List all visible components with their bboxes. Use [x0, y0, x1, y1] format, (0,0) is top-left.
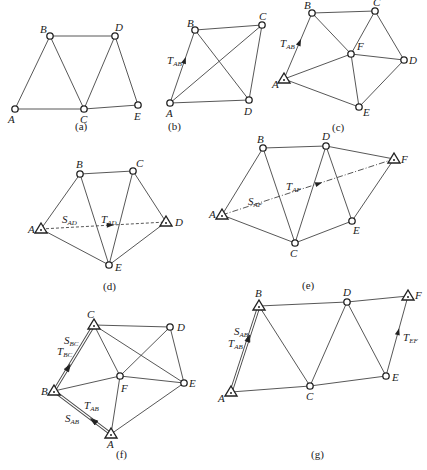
point-label-D: D — [342, 286, 351, 298]
panel-caption-a: (a) — [75, 120, 88, 133]
edge-CD — [133, 171, 166, 222]
station-point-circle-icon — [12, 106, 18, 112]
panel-caption-e: (e) — [302, 279, 315, 292]
known-point-triangle-icon — [35, 223, 47, 233]
point-label-C: C — [373, 0, 381, 8]
annotation-TAF: TAF — [286, 180, 301, 194]
triangle-center-dot — [221, 215, 223, 217]
edge-CD — [375, 11, 404, 60]
edge-BD — [259, 302, 347, 306]
station-point-circle-icon — [167, 100, 173, 106]
point-label-F: F — [414, 289, 422, 301]
station-point-circle-icon — [260, 145, 266, 151]
station-point-circle-icon — [348, 51, 354, 57]
station-point-circle-icon — [246, 97, 252, 103]
network-diagram-canvas: ABDCE(a)ABCDTAB(b)ABCFDETAB(c)ABCDESADTA… — [0, 0, 427, 470]
point-label-A: A — [7, 113, 15, 125]
point-label-E: E — [352, 224, 360, 236]
annotation-SAF: SAF — [248, 195, 263, 209]
panel-d: ABCDESADTAD(d) — [27, 157, 183, 293]
point-label-E: E — [133, 110, 141, 122]
edge-CE — [84, 105, 138, 109]
point-label-D: D — [174, 216, 183, 228]
edge-BD — [263, 146, 326, 148]
edge-AB — [15, 36, 50, 109]
station-point-circle-icon — [401, 57, 407, 63]
triangle-center-dot — [93, 325, 95, 327]
station-point-circle-icon — [356, 104, 362, 110]
point-label-B: B — [255, 287, 262, 299]
annotation-SAB: SAB — [65, 412, 80, 426]
point-label-C: C — [87, 308, 95, 320]
known-point-triangle-icon — [253, 300, 265, 310]
station-point-circle-icon — [372, 8, 378, 14]
point-label-D: D — [114, 21, 123, 33]
point-label-E: E — [114, 261, 122, 273]
panel-c: ABCFDETAB(c) — [271, 0, 417, 134]
triangle-center-dot — [393, 159, 395, 161]
edge-CF — [94, 325, 120, 376]
station-point-circle-icon — [77, 171, 83, 177]
edge-CD — [84, 36, 115, 109]
point-label-F: F — [356, 40, 364, 52]
arrow-icon — [395, 327, 402, 335]
station-point-circle-icon — [167, 324, 173, 330]
triangle-center-dot — [283, 79, 285, 81]
point-label-F: F — [120, 382, 128, 394]
annotation-TEF: TEF — [403, 331, 418, 345]
point-label-D: D — [243, 105, 252, 117]
station-point-circle-icon — [106, 262, 112, 268]
station-point-circle-icon — [307, 383, 313, 389]
point-label-D: D — [321, 130, 330, 142]
panel-caption-f: (f) — [116, 448, 127, 461]
point-label-D: D — [176, 321, 185, 333]
edge-EF — [352, 159, 394, 221]
annotation-TAB: TAB — [228, 337, 243, 351]
station-point-circle-icon — [259, 22, 265, 28]
station-point-circle-icon — [181, 380, 187, 386]
triangle-center-dot — [53, 391, 55, 393]
edge-ED — [359, 60, 404, 107]
annotation-SAD: SAD — [62, 213, 77, 227]
edge-CE — [295, 221, 352, 243]
edge-BC — [80, 171, 133, 174]
edge-BC — [263, 148, 295, 243]
triangle-center-dot — [165, 222, 167, 224]
edge-BD — [195, 30, 249, 100]
station-point-circle-icon — [292, 240, 298, 246]
edge-DE — [109, 222, 166, 265]
edge-AC — [231, 386, 310, 392]
station-point-circle-icon — [81, 106, 87, 112]
edge-CD — [94, 325, 170, 327]
edge-BC — [259, 306, 310, 386]
edge-DE — [326, 146, 352, 221]
panel-caption-d: (d) — [103, 280, 116, 293]
panel-b: ABCDTAB(b) — [165, 10, 267, 133]
edge-DF — [347, 296, 408, 302]
point-label-B: B — [76, 158, 83, 170]
edge-AF — [284, 54, 351, 79]
point-label-A: A — [165, 107, 173, 119]
point-label-A: A — [217, 392, 225, 404]
point-label-A: A — [27, 223, 35, 235]
point-label-A: A — [106, 438, 114, 450]
edge-BC — [195, 25, 262, 30]
station-point-circle-icon — [117, 373, 123, 379]
edge-FE — [351, 54, 359, 107]
point-label-F: F — [400, 153, 408, 165]
panel-caption-c: (c) — [332, 121, 345, 134]
edge-BF — [54, 376, 120, 391]
triangulation-network-figure: ABDCE(a)ABCDTAB(b)ABCFDETAB(c)ABCDESADTA… — [0, 0, 427, 470]
point-label-C: C — [290, 247, 298, 259]
point-label-E: E — [362, 106, 370, 118]
edge-DE — [170, 327, 184, 383]
edge-CE — [310, 376, 386, 386]
point-label-E: E — [188, 377, 196, 389]
edge-AC — [222, 215, 295, 243]
edge-BF — [312, 13, 351, 54]
triangle-center-dot — [407, 296, 409, 298]
annotation-TAB: TAB — [167, 54, 182, 68]
point-label-C: C — [259, 10, 267, 22]
edge-CE — [109, 171, 133, 265]
edge-CD — [295, 146, 326, 243]
